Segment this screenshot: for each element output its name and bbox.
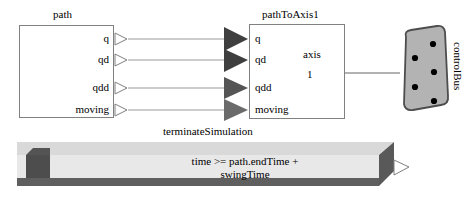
term-inner-square (26, 155, 50, 178)
pathtoaxis-input-label-qdd: qdd (255, 82, 272, 93)
pathtoaxis-input-label-qd: qd (255, 54, 266, 65)
input-port-q[interactable] (224, 27, 248, 51)
bus-dot-4 (412, 84, 418, 90)
terminate-condition-line1: time >= path.endTime + (192, 155, 299, 167)
path-output-label-qd: qd (79, 54, 109, 65)
terminate-simulation-condition: time >= path.endTime +swingTime (155, 155, 335, 181)
bus-dot-5 (431, 98, 437, 104)
pathtoaxis-input-label-q: q (255, 33, 261, 44)
bus-dot-2 (412, 55, 418, 61)
output-port-moving[interactable] (115, 104, 127, 116)
output-port-q[interactable] (115, 33, 127, 45)
axis-connector-label: axis (303, 49, 321, 60)
bus-connector-icon[interactable] (404, 26, 448, 110)
path-output-label-q: q (79, 33, 109, 44)
pathtoaxis-input-ports (224, 27, 248, 121)
input-port-moving[interactable] (224, 99, 248, 121)
path-output-label-qdd: qdd (74, 82, 109, 93)
input-port-qdd[interactable] (224, 77, 248, 99)
path-block-title: path (53, 9, 72, 20)
term-top-face (17, 142, 394, 155)
bus-dot-3 (431, 69, 437, 75)
input-port-qd[interactable] (224, 49, 248, 72)
output-port-qd[interactable] (115, 54, 127, 66)
control-bus-label: controlBus (452, 42, 463, 90)
path-to-axis1-block-title: pathToAxis1 (262, 9, 319, 20)
pathtoaxis-input-label-moving: moving (255, 104, 289, 115)
axis-connector-index: 1 (307, 69, 313, 80)
path-output-label-moving: moving (54, 104, 109, 115)
output-port-qdd[interactable] (115, 82, 127, 94)
terminate-simulation-title: terminateSimulation (163, 126, 253, 137)
term-output-port[interactable] (394, 160, 409, 175)
path-output-ports (115, 33, 127, 116)
terminate-condition-line2: swingTime (220, 168, 269, 180)
bus-dot-1 (430, 41, 436, 47)
